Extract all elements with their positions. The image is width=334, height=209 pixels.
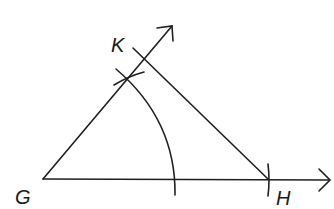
ray-gk [43, 26, 172, 179]
label-h: H [276, 187, 291, 209]
compass-arc [116, 69, 175, 195]
cross-arc-mark [114, 72, 144, 85]
triangle-construction-diagram: G H K [0, 0, 334, 209]
label-g: G [15, 186, 31, 208]
ray-gh [43, 179, 329, 180]
label-k: K [111, 34, 126, 56]
